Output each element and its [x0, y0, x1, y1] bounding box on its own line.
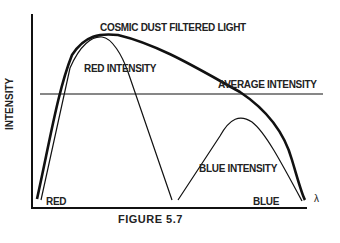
red-intensity-curve — [41, 37, 172, 200]
blue-axis-label: BLUE — [253, 196, 279, 207]
average-intensity-label: AVERAGE INTENSITY — [218, 79, 317, 90]
red-intensity-label: RED INTENSITY — [84, 63, 156, 74]
figure-caption: FIGURE 5.7 — [118, 213, 183, 225]
red-axis-label: RED — [46, 196, 66, 207]
blue-intensity-label: BLUE INTENSITY — [199, 163, 277, 174]
cosmic-dust-curve — [37, 34, 305, 200]
blue-intensity-curve — [178, 118, 302, 201]
y-axis-label: INTENSITY — [4, 78, 15, 130]
lambda-symbol: λ — [314, 193, 319, 204]
cosmic-dust-label: COSMIC DUST FILTERED LIGHT — [100, 22, 246, 33]
